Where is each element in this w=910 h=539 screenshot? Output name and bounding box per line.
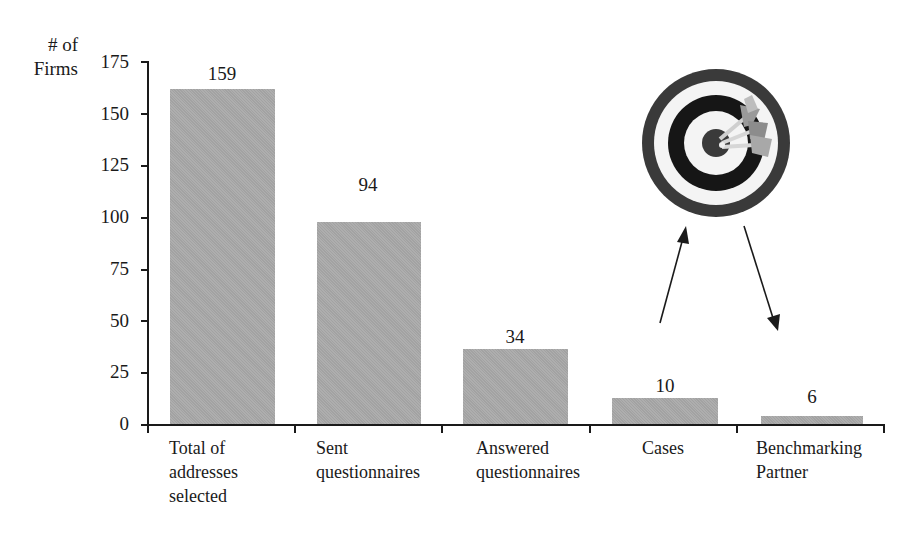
arrow-down-icon bbox=[744, 226, 780, 331]
arrow-up-icon bbox=[660, 226, 689, 323]
arrows bbox=[0, 0, 910, 539]
